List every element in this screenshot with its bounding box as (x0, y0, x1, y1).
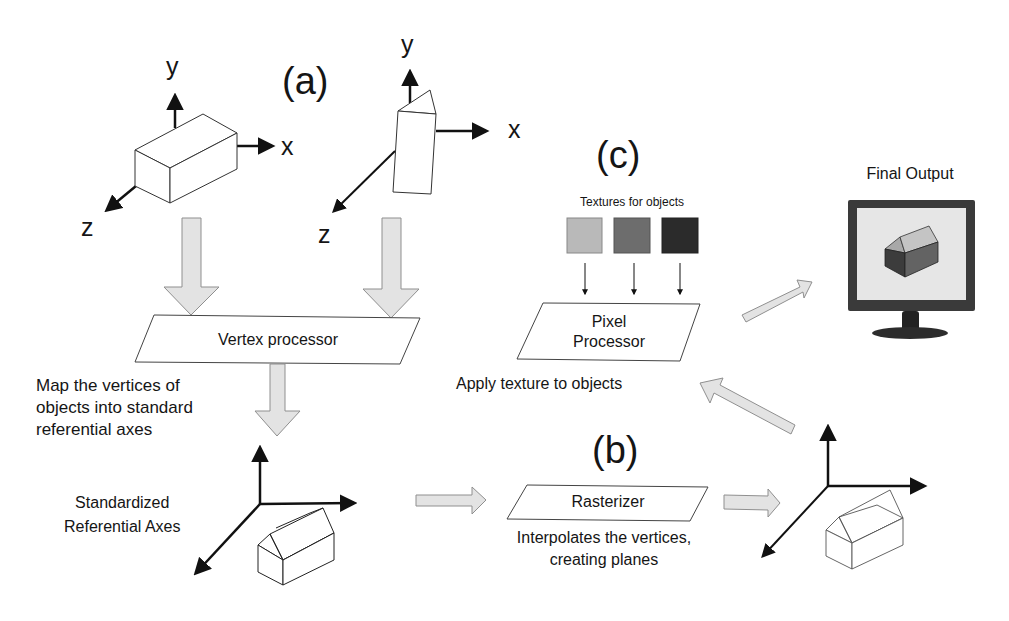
axis-label-y-2: y (401, 32, 414, 57)
z-axis-arrow-1 (107, 186, 136, 210)
down-arrow-vertex (255, 364, 300, 436)
axis-label-x-2: x (508, 117, 521, 142)
vertex-processor-label: Vertex processor (218, 332, 338, 348)
rasterizer-desc-line-1: Interpolates the vertices, (517, 527, 691, 549)
arrow-to-final-output (742, 280, 812, 322)
prism-roof (398, 90, 436, 114)
arrow-from-rasterizer (724, 489, 780, 517)
axis-label-y-1: y (166, 54, 179, 79)
box-object-axes (107, 96, 272, 210)
prism-body (393, 111, 436, 194)
axis-label-z-1: z (81, 215, 94, 240)
section-label-b: (b) (592, 431, 638, 469)
rasterized-axes-group (763, 427, 924, 569)
textures-title: Textures for objects (580, 196, 684, 208)
rasterizer-label: Rasterizer (572, 494, 645, 510)
arrow-to-pixel-processor (700, 378, 795, 434)
pixel-processor-description: Apply texture to objects (456, 376, 622, 392)
rasterizer-desc-line-2: creating planes (517, 549, 691, 571)
standardized-axes-label: Standardized Referential Axes (64, 491, 181, 539)
pixel-label-line-1: Pixel (573, 312, 645, 332)
axis-label-z-2: z (318, 222, 331, 247)
texture-swatch-medium (614, 218, 650, 253)
house-wireframe-2 (826, 490, 903, 569)
std-x-axis (260, 503, 354, 504)
down-arrow-right (363, 218, 419, 318)
pixel-processor-label: Pixel Processor (573, 312, 645, 352)
texture-swatch-light (567, 218, 602, 253)
monitor-base (872, 327, 948, 339)
rasterizer-description: Interpolates the vertices, creating plan… (517, 527, 691, 571)
vertex-desc-line-3: referential axes (36, 419, 193, 441)
pixel-label-line-2: Processor (573, 332, 645, 352)
arrow-to-rasterizer (416, 487, 486, 514)
final-output-title: Final Output (866, 166, 953, 182)
std-axes-line-1: Standardized (64, 491, 181, 515)
section-label-a: (a) (282, 62, 328, 100)
std-z-axis (196, 504, 260, 573)
prism-object-axes (334, 72, 486, 211)
texture-swatch-dark (662, 218, 698, 253)
vertex-processor-description: Map the vertices of objects into standar… (36, 375, 193, 441)
section-label-c: (c) (596, 136, 640, 174)
z-axis-arrow-2 (334, 151, 395, 211)
vertex-desc-line-1: Map the vertices of (36, 375, 193, 397)
down-arrow-left (164, 218, 219, 315)
monitor-icon (848, 200, 975, 339)
std-axes-line-2: Referential Axes (64, 515, 181, 539)
axis-label-x-1: x (281, 134, 294, 159)
standardized-axes-group (196, 448, 354, 585)
vertex-desc-line-2: objects into standard (36, 397, 193, 419)
house-wireframe-1 (258, 508, 334, 585)
